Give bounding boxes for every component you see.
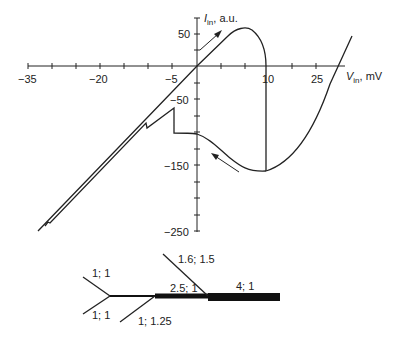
lower-branch-curve [45, 108, 266, 226]
y-axis-title: Iin, a.u. [204, 12, 238, 27]
y-tick-label: −150 [164, 160, 189, 172]
branch-label: 1; 1.25 [138, 315, 172, 327]
x-tick-label: −5 [165, 73, 178, 85]
branch-label: 1; 1 [92, 267, 110, 279]
y-tick-label: −50 [170, 94, 189, 106]
branch-label: 1.6; 1.5 [178, 253, 215, 265]
return-branch-curve [266, 36, 352, 171]
x-tick-label: −20 [89, 73, 108, 85]
y-tick-label: −250 [164, 226, 189, 238]
x-tick-label: 10 [262, 73, 274, 85]
iv-curve-diagram: −35 −20 −5 10 25 50 −50 −150 −250 Iin, a… [0, 0, 393, 337]
branch-label: 4; 1 [236, 280, 254, 292]
x-tick-label: 25 [311, 73, 323, 85]
arrow-back-icon [211, 153, 239, 172]
x-axis-title: Vin, mV [346, 70, 383, 85]
y-tick-label: 50 [178, 28, 190, 40]
x-tick-label: −35 [18, 73, 37, 85]
branch-label: 2.5; 1 [170, 282, 198, 294]
branch-label: 1; 1 [92, 309, 110, 321]
arrow-up-icon [200, 30, 222, 50]
